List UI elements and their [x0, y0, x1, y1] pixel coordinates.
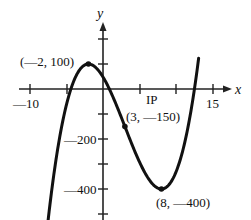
x-axis-arrow-icon	[223, 86, 232, 93]
y-tick-label-neg200: —200	[63, 132, 97, 147]
inflection-point-marker	[122, 124, 128, 130]
y-axis-label: y	[95, 6, 104, 21]
y-tick-label-neg400: —400	[63, 182, 97, 197]
x-axis-label: x	[234, 82, 242, 97]
cubic-graph: x —10 15 IP y —200 —400 (—2, 100) (3, —1…	[0, 0, 251, 220]
y-axis-arrow-icon	[100, 22, 107, 31]
max-point-marker	[86, 61, 92, 67]
x-axis: x —10 15 IP	[12, 82, 242, 111]
min-point-marker	[159, 186, 165, 192]
ip-label: IP	[146, 92, 158, 107]
x-tick-label-neg10: —10	[12, 96, 39, 111]
inflection-point-label: (3, —150)	[126, 109, 180, 124]
y-axis: y —200 —400	[63, 6, 108, 220]
max-point-label: (—2, 100)	[20, 54, 74, 69]
min-point-label: (8, —400)	[156, 195, 210, 210]
x-tick-label-15: 15	[206, 96, 219, 111]
